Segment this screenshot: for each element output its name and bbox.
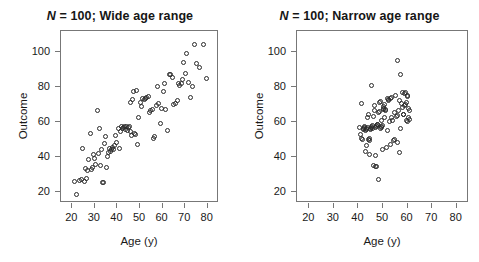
data-point xyxy=(371,114,376,119)
x-axis-tick xyxy=(94,203,95,208)
data-point xyxy=(150,107,155,112)
x-axis-tick-label: 40 xyxy=(110,211,122,223)
x-axis-tick xyxy=(308,203,309,208)
data-point xyxy=(74,192,79,197)
scatter-points-wide xyxy=(61,31,217,201)
data-point xyxy=(146,94,151,99)
data-point xyxy=(133,132,138,137)
panel-left-title: N = 100; Wide age range xyxy=(0,9,240,23)
data-point xyxy=(92,156,97,161)
figure-container: N = 100; Wide age range 2040608010020304… xyxy=(0,0,479,262)
panel-narrow-age-range: N = 100; Narrow age range 20406080100203… xyxy=(240,0,479,262)
x-axis-tick-label: 80 xyxy=(201,211,213,223)
x-axis-tick xyxy=(162,203,163,208)
x-axis-tick-label: 20 xyxy=(65,211,77,223)
y-axis-tick-label: 40 xyxy=(24,150,50,162)
data-point xyxy=(180,77,185,82)
data-point xyxy=(369,83,374,88)
plot-area-narrow xyxy=(296,30,468,202)
data-point xyxy=(165,128,170,133)
data-point xyxy=(184,51,189,56)
data-point xyxy=(114,140,119,145)
x-axis-tick xyxy=(116,203,117,208)
panel-right-title-rest: = 100; Narrow age range xyxy=(289,9,440,23)
data-point xyxy=(152,134,157,139)
x-axis-tick xyxy=(333,203,334,208)
data-point xyxy=(197,65,202,70)
data-point xyxy=(103,134,108,139)
data-point xyxy=(407,117,412,122)
data-point xyxy=(88,131,93,136)
data-point xyxy=(99,147,104,152)
data-point xyxy=(395,113,400,118)
panel-right-title-n: N xyxy=(280,9,289,23)
y-axis-label-narrow: Outcome xyxy=(253,93,265,140)
x-axis-tick xyxy=(382,203,383,208)
data-point xyxy=(80,146,85,151)
x-axis-tick-label: 40 xyxy=(351,211,363,223)
data-point xyxy=(130,97,135,102)
data-point xyxy=(134,88,139,93)
data-point xyxy=(135,142,140,147)
panel-wide-age-range: N = 100; Wide age range 2040608010020304… xyxy=(0,0,240,262)
scatter-points-narrow xyxy=(297,31,467,201)
data-point xyxy=(388,142,393,147)
x-axis-tick-label: 80 xyxy=(450,211,462,223)
data-point xyxy=(190,84,195,89)
data-point xyxy=(405,94,410,99)
data-point xyxy=(398,126,403,131)
data-point xyxy=(390,118,395,123)
data-point xyxy=(139,104,144,109)
data-point xyxy=(96,151,101,156)
y-axis-tick xyxy=(291,86,296,87)
y-axis-tick xyxy=(55,121,60,122)
data-point xyxy=(382,102,387,107)
data-point xyxy=(162,81,167,86)
x-axis-tick xyxy=(407,203,408,208)
panel-right-title: N = 100; Narrow age range xyxy=(240,9,479,23)
data-point xyxy=(359,101,364,106)
data-point xyxy=(101,180,106,185)
data-point xyxy=(98,163,103,168)
data-point xyxy=(102,141,107,146)
data-point xyxy=(117,146,122,151)
y-axis-tick-label: 20 xyxy=(24,185,50,197)
x-axis-tick-label: 70 xyxy=(178,211,190,223)
y-axis-tick xyxy=(291,121,296,122)
y-axis-tick-label: 80 xyxy=(260,80,286,92)
x-axis-tick-label: 50 xyxy=(133,211,145,223)
data-point xyxy=(158,121,163,126)
y-axis-tick-label: 100 xyxy=(260,45,286,57)
data-point xyxy=(398,72,403,77)
data-point xyxy=(113,133,118,138)
plot-area-wide xyxy=(60,30,218,202)
data-point xyxy=(136,115,141,120)
y-axis-tick-label: 20 xyxy=(260,185,286,197)
x-axis-tick-label: 70 xyxy=(425,211,437,223)
y-axis-label-wide: Outcome xyxy=(17,93,29,140)
data-point xyxy=(360,137,365,142)
x-axis-tick-label: 30 xyxy=(327,211,339,223)
data-point xyxy=(104,165,109,170)
data-point xyxy=(84,176,89,181)
x-axis-tick xyxy=(456,203,457,208)
data-point xyxy=(188,95,193,100)
x-axis-tick xyxy=(357,203,358,208)
data-point xyxy=(367,152,372,157)
y-axis-tick xyxy=(291,191,296,192)
panel-left-title-n: N xyxy=(47,9,56,23)
data-point xyxy=(155,84,160,89)
data-point xyxy=(97,126,102,131)
data-point xyxy=(192,42,197,47)
x-axis-label-narrow: Age (y) xyxy=(296,235,468,247)
y-axis-tick xyxy=(291,156,296,157)
data-point xyxy=(383,107,388,112)
data-point xyxy=(163,107,168,112)
y-axis-tick xyxy=(291,51,296,52)
data-point xyxy=(201,42,206,47)
x-axis-tick-label: 20 xyxy=(302,211,314,223)
data-point xyxy=(183,71,188,76)
y-axis-tick-label: 100 xyxy=(24,45,50,57)
data-point xyxy=(385,128,390,133)
data-point xyxy=(407,108,412,113)
